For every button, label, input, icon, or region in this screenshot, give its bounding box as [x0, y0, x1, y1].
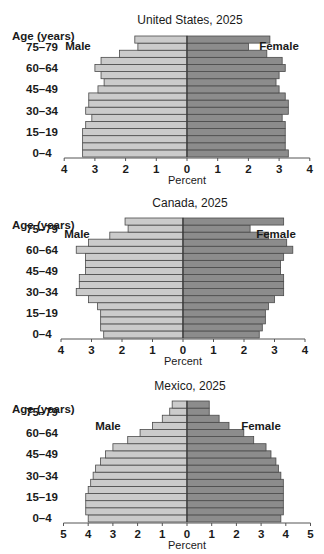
male-bar-10-14	[86, 501, 187, 508]
female-bar-40-44	[187, 458, 276, 465]
male-bar-30-34	[76, 289, 183, 296]
female-bar-35-39	[187, 465, 278, 472]
female-bar-5-9	[187, 508, 283, 515]
female-bar-0-4	[183, 331, 259, 338]
female-bar-45-49	[183, 267, 281, 274]
chart-title: United States, 2025	[137, 13, 243, 27]
female-bar-15-19	[187, 129, 285, 136]
female-bar-35-39	[183, 282, 284, 289]
legend-male-label: Male	[64, 228, 90, 240]
female-bar-60-64	[187, 429, 244, 436]
male-bar-80+	[172, 401, 187, 408]
male-bar-45-49	[85, 267, 183, 274]
x-tick-label: 1	[159, 528, 166, 540]
x-tick-label: 2	[119, 344, 125, 356]
male-bar-80+	[135, 36, 187, 43]
x-tick-label: 2	[122, 163, 128, 175]
x-tick-label: 3	[258, 528, 264, 540]
age-tick-label: 75–79	[26, 406, 58, 418]
male-bar-5-9	[83, 143, 187, 150]
age-tick-label: 0–4	[32, 328, 52, 340]
female-bar-55-59	[187, 72, 279, 79]
female-bar-20-24	[187, 486, 283, 493]
female-bar-55-59	[187, 437, 254, 444]
male-bar-20-24	[98, 303, 183, 310]
x-tick-label: 5	[60, 528, 67, 540]
female-bar-10-14	[183, 317, 265, 324]
x-tick-label: 4	[61, 163, 68, 175]
male-bar-10-14	[101, 317, 183, 324]
pyramid-chart-svg: Mexico, 2025Age (years)0–415–1930–3445–4…	[0, 367, 324, 554]
male-bar-40-44	[89, 93, 187, 100]
female-bar-5-9	[183, 324, 262, 331]
female-bar-45-49	[187, 86, 279, 93]
age-tick-label: 60–64	[26, 427, 59, 439]
male-bar-30-34	[93, 472, 187, 479]
legend-female-label: Female	[256, 228, 296, 240]
female-bar-30-34	[183, 289, 284, 296]
male-bar-70-74	[110, 232, 183, 239]
age-tick-label: 75–79	[26, 223, 58, 235]
male-bar-80+	[125, 218, 183, 225]
female-bar-75-79	[187, 43, 248, 50]
x-tick-label: 3	[276, 163, 282, 175]
female-bar-70-74	[187, 415, 219, 422]
female-bar-80+	[187, 401, 209, 408]
age-tick-label: 15–19	[26, 126, 58, 138]
pyramid-mexico: Mexico, 2025Age (years)0–415–1930–3445–4…	[0, 367, 324, 554]
x-tick-label: 2	[241, 344, 247, 356]
female-bar-15-19	[187, 494, 283, 501]
age-tick-label: 0–4	[32, 147, 52, 159]
legend-female-label: Female	[259, 40, 299, 52]
male-bar-20-24	[86, 121, 187, 128]
age-tick-label: 45–49	[26, 83, 58, 95]
age-tick-label: 45–49	[26, 265, 58, 277]
x-tick-label: 1	[153, 163, 160, 175]
female-bar-45-49	[187, 451, 271, 458]
pyramid-canada: Canada, 2025Age (years)0–415–1930–3445–4…	[0, 185, 324, 367]
pyramid-chart-svg: Canada, 2025Age (years)0–415–1930–3445–4…	[0, 185, 324, 367]
male-bar-0-4	[104, 331, 183, 338]
female-bar-25-29	[183, 296, 275, 303]
x-axis-title: Percent	[168, 174, 206, 185]
male-bar-55-59	[85, 253, 183, 260]
x-tick-label: 2	[233, 528, 239, 540]
x-tick-label: 5	[307, 528, 314, 540]
male-bar-25-29	[88, 296, 183, 303]
age-tick-label: 60–64	[26, 62, 59, 74]
male-bar-50-54	[104, 79, 187, 86]
female-bar-0-4	[187, 150, 288, 157]
age-tick-label: 15–19	[26, 307, 58, 319]
legend-male-label: Male	[65, 40, 91, 52]
x-axis-title: Percent	[164, 355, 202, 367]
male-bar-75-79	[170, 408, 187, 415]
male-bar-60-64	[140, 429, 187, 436]
pyramid-chart-svg: United States, 2025Age (years)0–415–1930…	[0, 0, 324, 185]
x-tick-label: 4	[307, 163, 314, 175]
male-bar-75-79	[138, 43, 187, 50]
male-bar-60-64	[76, 246, 183, 253]
age-tick-label: 30–34	[26, 105, 59, 117]
female-bar-10-14	[187, 501, 283, 508]
male-bar-50-54	[113, 444, 187, 451]
female-bar-60-64	[187, 64, 285, 71]
female-bar-5-9	[187, 143, 285, 150]
legend-male-label: Male	[95, 420, 121, 432]
male-bar-55-59	[101, 72, 187, 79]
x-tick-label: 4	[283, 528, 290, 540]
age-tick-label: 75–79	[26, 41, 58, 53]
female-bar-70-74	[187, 50, 267, 57]
age-tick-label: 45–49	[26, 448, 58, 460]
male-bar-5-9	[101, 324, 183, 331]
male-bar-30-34	[86, 107, 187, 114]
female-bar-30-34	[187, 107, 288, 114]
x-tick-label: 4	[302, 344, 309, 356]
male-bar-65-69	[152, 422, 187, 429]
chart-title: Canada, 2025	[152, 196, 228, 210]
male-bar-25-29	[91, 479, 187, 486]
male-bar-40-44	[79, 274, 183, 281]
x-tick-label: 3	[271, 344, 277, 356]
female-bar-65-69	[183, 239, 287, 246]
x-tick-label: 1	[149, 344, 156, 356]
female-bar-65-69	[187, 57, 282, 64]
